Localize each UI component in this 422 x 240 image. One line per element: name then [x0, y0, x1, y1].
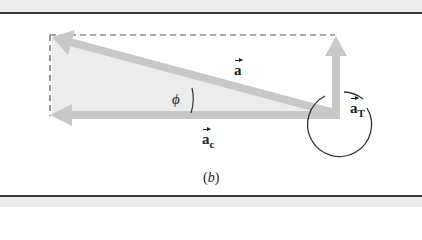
label-vector-a-c: ac [202, 132, 214, 150]
label-phi: ϕ [172, 91, 180, 108]
vector-a-t-arrow [325, 36, 347, 119]
label-vector-a-t: aT [350, 101, 365, 119]
figure-caption: (b) [203, 170, 219, 186]
label-vector-a: a [234, 63, 242, 78]
